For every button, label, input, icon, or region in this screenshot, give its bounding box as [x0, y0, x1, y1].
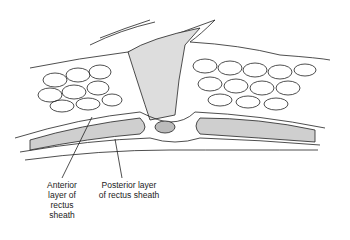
muscle-flap	[128, 28, 200, 120]
fat-lobules-right	[193, 59, 316, 110]
motion-line	[100, 20, 150, 38]
anterior-leader-line	[62, 117, 92, 178]
label-anterior-layer: Anterior layer of rectus sheath	[42, 180, 82, 220]
linea-alba	[155, 121, 175, 133]
fat-lobules-left	[38, 65, 122, 112]
peritoneum	[25, 150, 318, 160]
rectus-muscle-left	[30, 118, 145, 150]
label-posterior-layer: Posterior layer of rectus sheath	[92, 180, 166, 200]
posterior-leader-line	[115, 139, 122, 178]
motion-line	[90, 22, 155, 45]
